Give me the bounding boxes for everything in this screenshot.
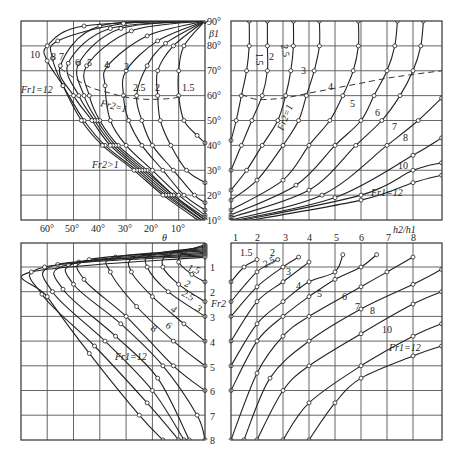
h2h1-ticks: h2/h1 1 2 3 4 5 6 7 8 [233, 224, 416, 243]
data-point [145, 64, 149, 68]
x-tick-50: 50° [65, 223, 79, 234]
tl-label-2.5: 2.5 [133, 82, 146, 93]
data-point [171, 168, 175, 172]
data-point [411, 181, 415, 185]
data-point [307, 295, 311, 299]
data-point [416, 119, 420, 123]
curve-1.5 [231, 260, 257, 282]
curve-Fr1-12 [309, 346, 442, 440]
data-point [161, 364, 165, 368]
tr-label-6: 6 [375, 107, 380, 118]
data-point [385, 69, 389, 73]
data-point [398, 94, 402, 98]
bl-label-fr1-12: Fr1=12 [114, 351, 147, 362]
data-point [375, 253, 379, 257]
h-tick-1: 1 [233, 232, 238, 243]
tr-label-5: 5 [350, 98, 355, 109]
data-point [195, 133, 199, 137]
data-point [411, 69, 415, 73]
data-point [182, 322, 186, 326]
top-left-y-ticks: 90° β1 80° 70° 60° 50° 40° 30° 20° 10° [207, 16, 221, 226]
data-point [114, 334, 118, 338]
data-point [135, 94, 139, 98]
data-point [411, 334, 415, 338]
data-point [356, 44, 360, 48]
h-tick-8: 8 [411, 232, 416, 243]
data-point [56, 39, 60, 43]
bottom-left-curves [21, 243, 207, 442]
data-point [333, 277, 337, 281]
data-point [260, 143, 264, 147]
br-label-4: 4 [296, 280, 301, 291]
h-tick-5: 5 [334, 232, 339, 243]
data-point [132, 168, 136, 172]
br-label-1.5: 1.5 [240, 247, 253, 258]
data-point [359, 265, 363, 269]
data-point [45, 59, 49, 63]
y-tick-20: 20° [207, 190, 221, 201]
br-label-10: 10 [382, 324, 392, 335]
tl-label-5: 5 [87, 57, 92, 68]
data-point [411, 282, 415, 286]
data-point [294, 183, 298, 187]
data-point [66, 61, 70, 65]
tl-label-2: 2 [155, 82, 160, 93]
data-point [177, 282, 181, 286]
data-point [127, 119, 131, 123]
data-point [61, 287, 65, 291]
data-point [255, 300, 259, 304]
x-tick-30: 30° [118, 223, 132, 234]
data-point [45, 44, 49, 48]
data-point [150, 143, 154, 147]
data-point [359, 285, 363, 289]
data-point [79, 119, 83, 123]
data-point [82, 24, 86, 28]
data-point [150, 295, 154, 299]
x-tick-20: 20° [144, 223, 158, 234]
fr2-tick-5: 5 [210, 362, 215, 373]
curve-7 [54, 253, 205, 440]
data-point [307, 260, 311, 264]
data-point [297, 255, 301, 259]
data-point [250, 119, 254, 123]
data-point [380, 119, 384, 123]
data-point [93, 344, 97, 348]
data-point [354, 143, 358, 147]
data-point [372, 94, 376, 98]
data-point [166, 290, 170, 294]
data-point [156, 39, 160, 43]
data-point [72, 94, 76, 98]
data-point [359, 198, 363, 202]
data-point [268, 376, 272, 380]
h-tick-6: 6 [359, 232, 364, 243]
data-point [328, 119, 332, 123]
data-point [411, 354, 415, 358]
tl-label-10: 10 [30, 49, 40, 60]
panel-frames [21, 21, 442, 440]
data-point [103, 339, 107, 343]
data-point [103, 84, 107, 88]
data-point [419, 44, 423, 48]
data-point [161, 168, 165, 172]
data-point [281, 143, 285, 147]
bl-label-2.5: 2.5 [180, 287, 196, 303]
data-point [129, 270, 133, 274]
data-point [72, 282, 76, 286]
y-tick-50: 50° [207, 115, 221, 126]
tr-label-2: 2 [269, 51, 274, 62]
data-point [195, 413, 199, 417]
data-point [192, 193, 196, 197]
data-point [255, 258, 259, 262]
data-point [359, 332, 363, 336]
top-left-curve-labels: 10 8 7 6 5 4 3 2.5 2 1.5 Fr1=12 Fr2=1 Fr… [20, 49, 195, 170]
curve-5 [77, 251, 205, 391]
data-point [411, 153, 415, 157]
h-tick-4: 4 [307, 232, 312, 243]
data-point [359, 364, 363, 368]
y-tick-90: 90° [207, 16, 221, 27]
data-point [156, 69, 160, 73]
data-point [129, 29, 133, 33]
data-point [393, 44, 397, 48]
data-point [156, 376, 160, 380]
data-point [87, 94, 91, 98]
